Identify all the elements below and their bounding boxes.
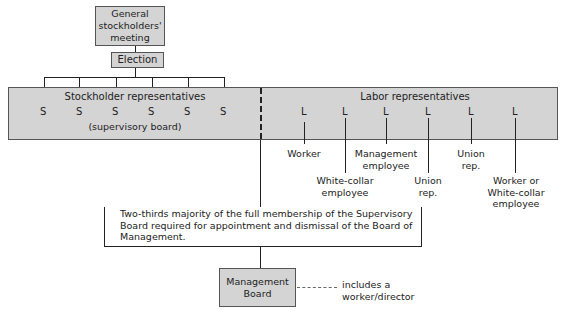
rule-bracket-bottom <box>104 246 422 247</box>
role-line: Union <box>405 175 451 187</box>
management-note: includes a worker/director <box>342 279 414 302</box>
role-line: employee <box>310 187 380 199</box>
labor-seat: L <box>301 106 307 117</box>
election-drop-4 <box>152 77 153 87</box>
labor-leader-3 <box>386 118 387 144</box>
stockholder-seat: S <box>76 106 82 117</box>
management-line-2: Board <box>226 288 289 300</box>
meeting-line-1: General <box>98 8 161 20</box>
connector-election-bracket <box>135 68 136 77</box>
role-line: rep. <box>448 160 494 172</box>
election-label: Election <box>118 54 158 66</box>
labor-role-union-rep-2: Union rep. <box>448 148 494 171</box>
stockholder-seat: S <box>220 106 226 117</box>
role-line: employee <box>351 160 421 172</box>
management-board-box: Management Board <box>219 268 296 307</box>
connector-rule-management <box>260 247 261 268</box>
board-divider-dashed <box>260 88 262 139</box>
note-line: includes a <box>342 279 414 291</box>
stockholder-representatives-title: Stockholder representatives <box>60 91 210 103</box>
rule-line: Two-thirds majority of the full membersh… <box>120 208 412 220</box>
labor-leader-5 <box>471 118 472 144</box>
rule-bracket-left <box>104 207 105 246</box>
rule-line: Board required for appointment and dismi… <box>120 220 412 232</box>
labor-role-worker: Worker <box>279 148 329 160</box>
election-drop-6 <box>224 77 225 87</box>
labor-seat: L <box>425 106 431 117</box>
note-line: worker/director <box>342 291 414 303</box>
stockholder-seat: S <box>184 106 190 117</box>
role-line: Union <box>448 148 494 160</box>
election-box: Election <box>111 52 164 68</box>
rule-line: Management. <box>120 231 412 243</box>
election-bracket-horizontal <box>44 77 225 78</box>
labor-seat: L <box>468 106 474 117</box>
supervisory-board-subtitle: (supervisory board) <box>80 121 190 133</box>
role-line: rep. <box>405 187 451 199</box>
labor-representatives-title: Labor representatives <box>350 91 480 103</box>
meeting-line-2: stockholders' <box>98 20 161 32</box>
labor-role-white-collar: White-collar employee <box>310 175 380 198</box>
rule-bracket-right <box>421 207 422 246</box>
role-line: Worker <box>279 148 329 160</box>
labor-leader-1 <box>304 122 305 144</box>
election-drop-1 <box>44 77 45 87</box>
labor-leader-4 <box>428 118 429 173</box>
labor-role-management-employee: Management employee <box>351 148 421 171</box>
election-drop-2 <box>79 77 80 87</box>
role-line: White-collar <box>480 187 552 199</box>
role-line: Management <box>351 148 421 160</box>
labor-seat: L <box>342 106 348 117</box>
stockholder-seat: S <box>148 106 154 117</box>
labor-leader-6 <box>515 118 516 173</box>
rule-text: Two-thirds majority of the full membersh… <box>120 208 412 243</box>
role-line: Worker or <box>480 175 552 187</box>
role-line: White-collar <box>310 175 380 187</box>
labor-seat: L <box>512 106 518 117</box>
election-drop-3 <box>116 77 117 87</box>
general-stockholders-meeting-box: General stockholders' meeting <box>95 6 165 46</box>
management-line-1: Management <box>226 276 289 288</box>
labor-leader-2 <box>345 118 346 173</box>
labor-seat: L <box>383 106 389 117</box>
stockholder-seat: S <box>40 106 46 117</box>
stockholder-seat: S <box>112 106 118 117</box>
role-line: employee <box>480 198 552 210</box>
labor-role-worker-or-white-collar: Worker or White-collar employee <box>480 175 552 210</box>
election-drop-5 <box>188 77 189 87</box>
meeting-line-3: meeting <box>98 32 161 44</box>
labor-role-union-rep-1: Union rep. <box>405 175 451 198</box>
management-note-connector <box>297 287 337 288</box>
supervisory-stem <box>260 140 261 207</box>
